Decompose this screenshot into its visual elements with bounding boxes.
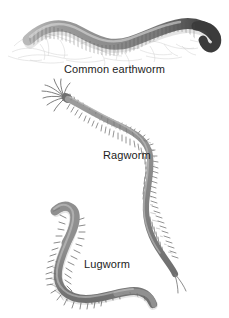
worm-illustration-plate: Common earthworm Ragworm Lugworm (0, 0, 229, 318)
ragworm-segments (70, 96, 176, 254)
label-ragworm: Ragworm (103, 149, 151, 161)
earthworm-icon (8, 22, 217, 66)
label-common-earthworm: Common earthworm (0, 63, 229, 75)
ragworm-body (68, 99, 175, 274)
lugworm-icon (46, 205, 154, 309)
label-lugworm: Lugworm (84, 258, 130, 270)
ragworm-tail-cirri (175, 274, 186, 293)
ragworm-parapodia (67, 94, 178, 264)
